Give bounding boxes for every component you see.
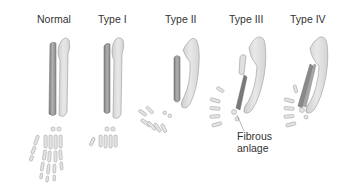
diagram-artwork xyxy=(0,0,350,186)
carpal-bones xyxy=(105,127,115,131)
panel-type-2 xyxy=(138,38,199,133)
panel-type-3 xyxy=(210,37,266,131)
ulna-bone xyxy=(112,38,124,119)
ulna-bone-bowed xyxy=(181,38,199,108)
ulna-bone-bowed xyxy=(244,37,266,113)
hand-bones-deviated xyxy=(138,106,171,133)
radius-bone xyxy=(49,42,56,115)
panel-type-1 xyxy=(89,38,124,148)
thumb-bones-hypoplastic xyxy=(89,137,96,146)
annotation-leader-line xyxy=(237,115,244,131)
radius-bone-hypoplastic xyxy=(174,56,180,102)
carpal-bones xyxy=(51,127,61,131)
metacarpal-bones xyxy=(99,135,117,148)
radius-remnant xyxy=(239,55,246,75)
thumb-bones xyxy=(29,135,40,162)
radius-bone-short xyxy=(104,43,110,113)
ulna-bone xyxy=(58,38,70,116)
finger-bones xyxy=(39,135,63,182)
hand-bones-deviated xyxy=(210,86,239,127)
panel-type-4 xyxy=(284,37,328,127)
panel-normal xyxy=(29,38,70,182)
